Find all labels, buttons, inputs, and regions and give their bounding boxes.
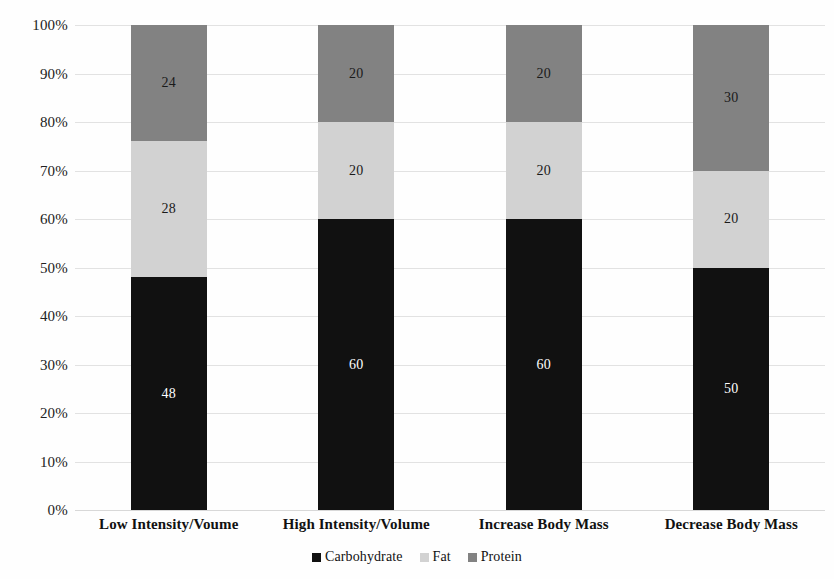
segment-value-label: 24	[161, 75, 176, 91]
segment-value-label: 20	[724, 211, 739, 227]
y-axis-tick-label: 30%	[40, 356, 68, 373]
x-axis-category-label: Increase Body Mass	[450, 516, 638, 533]
segment-value-label: 60	[349, 357, 364, 373]
legend-item-protein[interactable]: Protein	[468, 549, 522, 565]
legend-label: Carbohydrate	[325, 549, 402, 565]
x-axis: Low Intensity/VoumeHigh Intensity/Volume…	[75, 516, 825, 540]
bar-segment-carbohydrate[interactable]: 60	[506, 219, 582, 510]
y-axis-tick-label: 0%	[48, 502, 68, 519]
segment-value-label: 20	[349, 163, 364, 179]
segment-value-label: 30	[724, 90, 739, 106]
segment-value-label: 50	[724, 381, 739, 397]
y-axis-tick-label: 90%	[40, 65, 68, 82]
stacked-bar-chart: 482824602020602020502030 0%10%20%30%40%5…	[0, 0, 834, 579]
segment-value-label: 28	[161, 201, 176, 217]
x-axis-category-label: Low Intensity/Voume	[75, 516, 263, 533]
bar-segment-fat[interactable]: 20	[318, 122, 394, 219]
x-axis-category-label: High Intensity/Volume	[263, 516, 451, 533]
segment-value-label: 60	[536, 357, 551, 373]
bar-segment-fat[interactable]: 20	[693, 171, 769, 268]
plot-area: 482824602020602020502030	[75, 25, 825, 510]
bar-segment-carbohydrate[interactable]: 50	[693, 268, 769, 511]
legend-item-carbohydrate[interactable]: Carbohydrate	[312, 549, 402, 565]
segment-value-label: 20	[349, 66, 364, 82]
y-axis-tick-label: 50%	[40, 259, 68, 276]
bar-segment-carbohydrate[interactable]: 60	[318, 219, 394, 510]
bar-segment-protein[interactable]: 20	[318, 25, 394, 122]
y-axis-tick-label: 10%	[40, 453, 68, 470]
bar-group[interactable]: 482824	[131, 25, 207, 510]
y-axis-tick-label: 60%	[40, 211, 68, 228]
bar-stack: 602020	[506, 25, 582, 510]
y-axis-tick-label: 40%	[40, 308, 68, 325]
y-axis-tick-label: 70%	[40, 162, 68, 179]
legend-swatch-icon	[468, 553, 477, 562]
bar-stack: 482824	[131, 25, 207, 510]
x-axis-category-label: Decrease Body Mass	[638, 516, 826, 533]
legend-label: Fat	[433, 549, 451, 565]
y-axis: 0%10%20%30%40%50%60%70%80%90%100%	[0, 25, 68, 510]
bar-stack: 502030	[693, 25, 769, 510]
bar-segment-fat[interactable]: 20	[506, 122, 582, 219]
segment-value-label: 20	[536, 66, 551, 82]
legend-swatch-icon	[312, 553, 321, 562]
bar-segment-protein[interactable]: 30	[693, 25, 769, 171]
legend-label: Protein	[481, 549, 522, 565]
bar-stack: 602020	[318, 25, 394, 510]
chart-legend: CarbohydrateFatProtein	[0, 549, 834, 565]
bar-group[interactable]: 602020	[506, 25, 582, 510]
bar-segment-protein[interactable]: 24	[131, 25, 207, 141]
bar-segment-carbohydrate[interactable]: 48	[131, 277, 207, 510]
bar-segment-fat[interactable]: 28	[131, 141, 207, 277]
y-axis-tick-label: 100%	[32, 17, 68, 34]
bar-group[interactable]: 602020	[318, 25, 394, 510]
segment-value-label: 48	[161, 386, 176, 402]
gridline-0%	[75, 510, 825, 511]
segment-value-label: 20	[536, 163, 551, 179]
legend-swatch-icon	[420, 553, 429, 562]
legend-item-fat[interactable]: Fat	[420, 549, 451, 565]
y-axis-tick-label: 80%	[40, 114, 68, 131]
bar-group[interactable]: 502030	[693, 25, 769, 510]
y-axis-tick-label: 20%	[40, 405, 68, 422]
bar-segment-protein[interactable]: 20	[506, 25, 582, 122]
